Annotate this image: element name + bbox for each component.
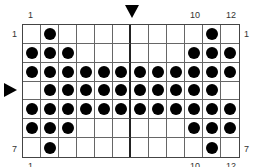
filled-dot-icon xyxy=(206,28,218,40)
grid-cell xyxy=(167,100,185,119)
grid-cell xyxy=(185,100,203,119)
grid-cell xyxy=(23,82,41,101)
filled-dot-icon xyxy=(188,84,200,96)
filled-dot-icon xyxy=(224,47,236,59)
filled-dot-icon xyxy=(206,142,218,154)
grid-cell xyxy=(95,119,113,138)
filled-dot-icon xyxy=(188,47,200,59)
filled-dot-icon xyxy=(44,66,56,78)
center-column-arrow-icon xyxy=(125,5,139,18)
grid-cell xyxy=(167,63,185,82)
filled-dot-icon xyxy=(62,103,74,115)
bottom-label-col1: 1 xyxy=(28,162,33,167)
filled-dot-icon xyxy=(224,66,236,78)
grid-cell xyxy=(77,44,95,63)
grid-cell xyxy=(41,100,59,119)
grid-cell xyxy=(113,100,131,119)
left-label-row7: 7 xyxy=(12,145,17,154)
filled-dot-icon xyxy=(115,84,127,96)
right-label-row1: 1 xyxy=(244,30,249,39)
filled-dot-icon xyxy=(62,84,74,96)
grid-cell xyxy=(95,25,113,44)
filled-dot-icon xyxy=(152,66,164,78)
grid-cell xyxy=(23,44,41,63)
grid-cell xyxy=(95,63,113,82)
grid-cell xyxy=(113,138,131,157)
grid-cell xyxy=(203,138,221,157)
filled-dot-icon xyxy=(98,84,110,96)
grid-cell xyxy=(59,25,77,44)
grid-cell xyxy=(131,138,149,157)
grid-cell xyxy=(221,25,239,44)
grid-cell xyxy=(185,25,203,44)
filled-dot-icon xyxy=(134,103,146,115)
filled-dot-icon xyxy=(224,103,236,115)
filled-dot-icon xyxy=(98,66,110,78)
grid-cell xyxy=(59,63,77,82)
grid-cell xyxy=(77,25,95,44)
grid-cell xyxy=(131,119,149,138)
filled-dot-icon xyxy=(170,103,182,115)
grid-cell xyxy=(95,100,113,119)
top-label-col10: 10 xyxy=(190,11,200,20)
grid-cell xyxy=(185,63,203,82)
top-label-col1: 1 xyxy=(28,11,33,20)
filled-dot-icon xyxy=(170,66,182,78)
filled-dot-icon xyxy=(152,103,164,115)
filled-dot-icon xyxy=(206,47,218,59)
filled-dot-icon xyxy=(80,84,92,96)
grid-cell xyxy=(23,100,41,119)
grid-cell xyxy=(221,82,239,101)
grid-cell xyxy=(221,44,239,63)
pattern-grid xyxy=(22,24,240,158)
filled-dot-icon xyxy=(98,103,110,115)
grid-cell xyxy=(167,25,185,44)
grid-cell xyxy=(23,138,41,157)
grid-cell xyxy=(221,100,239,119)
grid-cell xyxy=(113,119,131,138)
grid-cell xyxy=(221,63,239,82)
grid-cell xyxy=(77,82,95,101)
grid-cell xyxy=(131,100,149,119)
grid-cell xyxy=(41,138,59,157)
filled-dot-icon xyxy=(188,66,200,78)
grid-cell xyxy=(77,138,95,157)
grid-cell xyxy=(131,82,149,101)
filled-dot-icon xyxy=(170,84,182,96)
grid-cell xyxy=(185,82,203,101)
grid-cell xyxy=(203,82,221,101)
grid-cell xyxy=(149,119,167,138)
grid-cell xyxy=(167,119,185,138)
filled-dot-icon xyxy=(26,47,38,59)
grid-cell xyxy=(149,63,167,82)
grid-cell xyxy=(203,25,221,44)
grid-cell xyxy=(95,138,113,157)
filled-dot-icon xyxy=(115,103,127,115)
filled-dot-icon xyxy=(44,47,56,59)
filled-dot-icon xyxy=(206,84,218,96)
grid-cell xyxy=(185,44,203,63)
filled-dot-icon xyxy=(44,142,56,154)
filled-dot-icon xyxy=(152,84,164,96)
grid-cell xyxy=(59,138,77,157)
grid-cell xyxy=(41,82,59,101)
grid-cell xyxy=(149,138,167,157)
grid-cell xyxy=(131,63,149,82)
grid-cell xyxy=(77,63,95,82)
filled-dot-icon xyxy=(134,84,146,96)
bottom-label-col10: 10 xyxy=(190,162,200,167)
grid-cell xyxy=(23,119,41,138)
filled-dot-icon xyxy=(62,66,74,78)
grid-cell xyxy=(113,82,131,101)
grid-cell xyxy=(113,44,131,63)
filled-dot-icon xyxy=(44,122,56,134)
grid-cell xyxy=(59,119,77,138)
grid-cell xyxy=(41,63,59,82)
grid-cell xyxy=(149,44,167,63)
filled-dot-icon xyxy=(62,47,74,59)
grid-cell xyxy=(41,25,59,44)
grid-cell xyxy=(77,100,95,119)
grid-cell xyxy=(113,63,131,82)
grid-cell xyxy=(95,44,113,63)
grid-cell xyxy=(149,100,167,119)
